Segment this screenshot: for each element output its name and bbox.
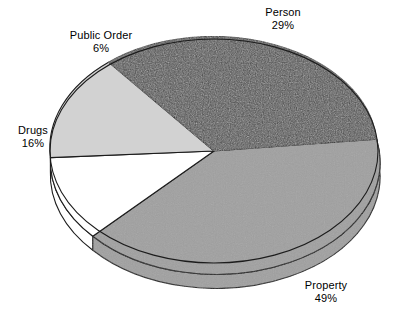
slice-label-public-order-name: Public Order [46,29,156,42]
slice-label-person: Person 29% [228,6,338,31]
slice-label-property-percent: 49% [278,292,374,305]
slice-label-drugs-percent: 16% [0,137,68,150]
slice-label-property-name: Property [278,279,374,292]
pie-chart-figure: Person 29% Public Order 6% Drugs 16% Pro… [0,0,400,316]
slice-label-person-name: Person [228,6,338,19]
slice-label-public-order-percent: 6% [46,42,156,55]
slice-label-drugs-name: Drugs [0,124,68,137]
slice-label-public-order: Public Order 6% [46,29,156,54]
slice-label-drugs: Drugs 16% [0,124,68,149]
slice-label-person-percent: 29% [228,19,338,32]
slice-label-property: Property 49% [278,279,374,304]
